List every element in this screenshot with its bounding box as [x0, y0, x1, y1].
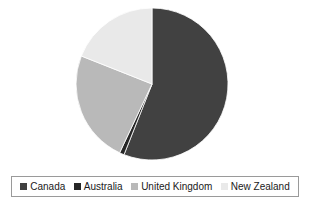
- pie-svg: [0, 0, 312, 168]
- legend-item-new-zealand[interactable]: New Zealand: [221, 181, 290, 192]
- legend-item-united-kingdom[interactable]: United Kingdom: [131, 181, 212, 192]
- chart-legend: Canada Australia United Kingdom New Zeal…: [11, 176, 299, 197]
- legend-label-united-kingdom: United Kingdom: [141, 181, 212, 192]
- legend-swatch-canada: [20, 183, 27, 190]
- pie-slice-group: [76, 8, 228, 160]
- legend-label-new-zealand: New Zealand: [231, 181, 290, 192]
- legend-item-canada[interactable]: Canada: [20, 181, 65, 192]
- legend-label-australia: Australia: [84, 181, 123, 192]
- legend-swatch-united-kingdom: [131, 183, 138, 190]
- legend-item-australia[interactable]: Australia: [74, 181, 123, 192]
- legend-swatch-australia: [74, 183, 81, 190]
- legend-label-canada: Canada: [30, 181, 65, 192]
- pie-chart-figure: Canada Australia United Kingdom New Zeal…: [0, 0, 312, 207]
- pie-plot-area: [0, 0, 312, 168]
- legend-swatch-new-zealand: [221, 183, 228, 190]
